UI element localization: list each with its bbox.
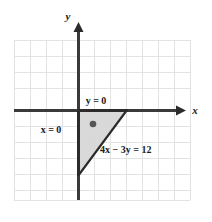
label-y-equals-zero: y = 0 (86, 95, 107, 106)
label-boundary-equation: 4x − 3y = 12 (100, 144, 151, 155)
graph-figure: y x y = 0 x = 0 4x − 3y = 12 (0, 0, 212, 222)
test-point-marker (90, 121, 97, 128)
x-axis-label: x (191, 104, 198, 116)
y-axis-label: y (64, 10, 71, 22)
label-x-equals-zero: x = 0 (41, 124, 62, 135)
figure-caption (0, 210, 212, 222)
coordinate-plane-graph: y x y = 0 x = 0 4x − 3y = 12 (0, 0, 212, 222)
